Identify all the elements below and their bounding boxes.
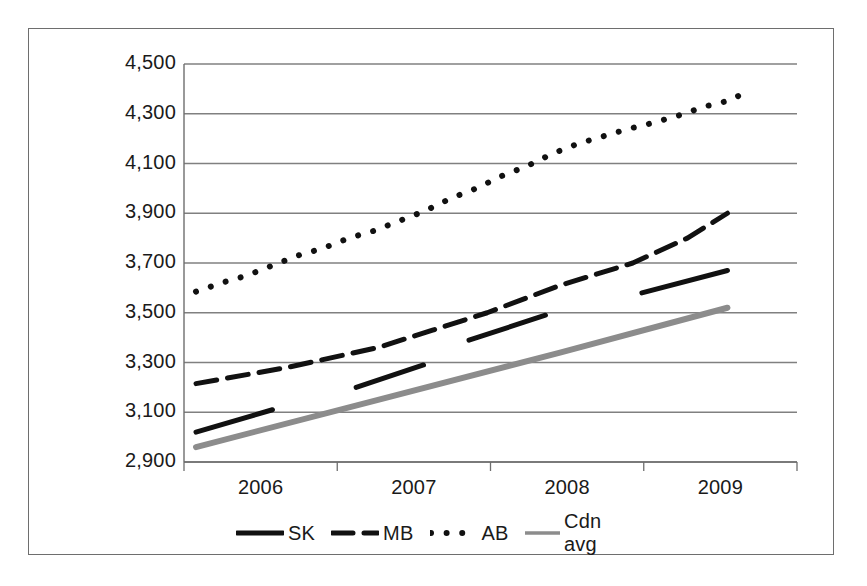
- y-axis-tick-label: 3,300: [86, 350, 176, 373]
- y-axis-tick-label: 3,900: [86, 200, 176, 223]
- legend-swatch-solid: [525, 525, 560, 541]
- y-axis-tick-label: 2,900: [86, 449, 176, 472]
- legend-entry-ab[interactable]: AB: [430, 522, 509, 545]
- y-axis-tick-label: 3,100: [86, 399, 176, 422]
- legend-entry-sk[interactable]: SK: [236, 522, 315, 545]
- chart-legend: SKMBABCdn avg: [236, 516, 636, 550]
- legend-label: SK: [288, 522, 315, 545]
- y-axis-tick-label: 4,100: [86, 151, 176, 174]
- legend-swatch-dashed: [331, 525, 379, 541]
- legend-label: MB: [383, 522, 413, 545]
- legend-label: AB: [482, 522, 509, 545]
- x-axis-tick-label: 2009: [665, 476, 775, 499]
- legend-entry-mb[interactable]: MB: [331, 522, 413, 545]
- legend-label: Cdn avg: [564, 510, 620, 556]
- x-axis-tick-label: 2006: [206, 476, 316, 499]
- x-axis-tick-label: 2007: [359, 476, 469, 499]
- y-axis-tick-label: 3,500: [86, 300, 176, 323]
- y-axis-tick-label: 4,300: [86, 101, 176, 124]
- y-axis-tick-label: 3,700: [86, 250, 176, 273]
- legend-swatch-solid: [236, 525, 284, 541]
- y-axis-tick-label: 4,500: [86, 51, 176, 74]
- legend-swatch-dotted: [430, 525, 478, 541]
- x-axis-tick-label: 2008: [512, 476, 622, 499]
- legend-entry-cdn-avg[interactable]: Cdn avg: [525, 510, 620, 556]
